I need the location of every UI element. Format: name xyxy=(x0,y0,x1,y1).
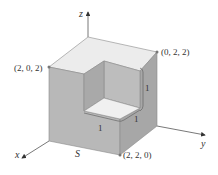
dim-label-vertical: 1 xyxy=(145,83,150,93)
dim-label-right: 1 xyxy=(134,114,139,124)
vertex-dot-202 xyxy=(48,66,51,69)
point-label-022: (0, 2, 2) xyxy=(161,47,190,57)
z-axis-label: z xyxy=(78,8,83,19)
point-label-202: (2, 0, 2) xyxy=(14,63,43,73)
surface-label: S xyxy=(75,148,80,159)
point-label-220: (2, 2, 0) xyxy=(123,150,152,160)
x-axis-label: x xyxy=(14,149,20,160)
vertex-dot-220 xyxy=(119,154,122,157)
x-axis xyxy=(22,141,49,158)
dim-label-front: 1 xyxy=(98,123,103,133)
diagram-canvas: z y x (2, 0, 2) (0, 2, 2) (2, 2, 0) 1 1 … xyxy=(0,0,218,175)
y-axis-label: y xyxy=(200,138,206,149)
vertex-dot-022 xyxy=(156,51,159,54)
notched-cube-figure: z y x (2, 0, 2) (0, 2, 2) (2, 2, 0) 1 1 … xyxy=(0,0,218,175)
y-axis xyxy=(157,126,205,135)
